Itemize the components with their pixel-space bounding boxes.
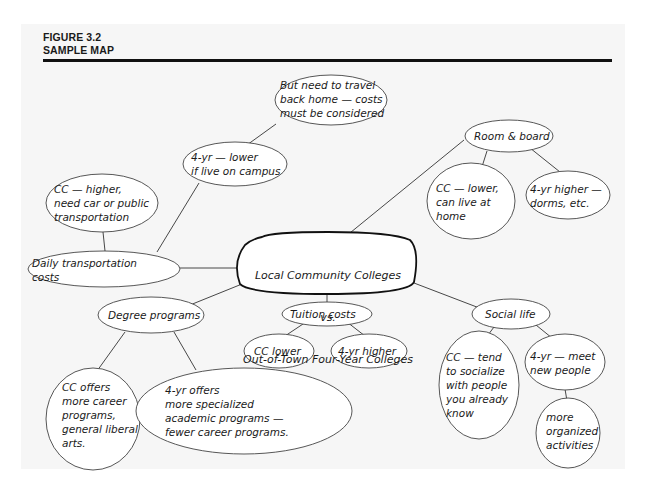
node-cc-socialize bbox=[439, 331, 519, 439]
edge-roomboard-dorms bbox=[530, 148, 560, 172]
node-tuition-costs bbox=[282, 302, 372, 326]
node-cc-home bbox=[427, 163, 515, 239]
node-organized bbox=[536, 398, 600, 468]
node-4yr-dorms bbox=[526, 171, 610, 219]
edge-daily-cctransport bbox=[103, 232, 105, 251]
edge-degree-cc bbox=[97, 332, 125, 371]
node-degree-programs bbox=[98, 297, 204, 333]
node-cc-career bbox=[46, 368, 140, 470]
node-4yr-campus bbox=[183, 142, 287, 186]
node-daily-transport bbox=[28, 251, 180, 287]
node-center bbox=[237, 232, 416, 294]
edge-center-degree bbox=[190, 284, 242, 305]
edge-degree-4yr bbox=[174, 332, 196, 370]
concept-map bbox=[0, 0, 653, 488]
node-room-board bbox=[465, 120, 553, 152]
node-cc-transport bbox=[46, 174, 158, 232]
node-travel-home bbox=[275, 75, 387, 125]
node-4yr-meet bbox=[525, 334, 605, 390]
edge-center-social bbox=[414, 283, 482, 309]
node-4yr-academic bbox=[136, 368, 352, 454]
node-social-life bbox=[472, 299, 550, 329]
node-4yr-higher bbox=[331, 334, 407, 368]
node-cc-lower bbox=[244, 334, 314, 368]
edge-daily-campus bbox=[157, 183, 199, 252]
